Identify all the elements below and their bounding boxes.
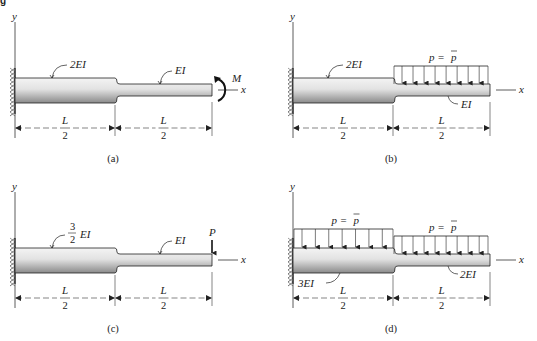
panel-caption: (c) (107, 323, 119, 335)
length-numerator: L (159, 284, 166, 296)
fixed-support-hatch (10, 68, 15, 116)
length-denominator: 2 (439, 300, 444, 311)
figure-canvas: g yxL2L22EIEIM(a)yxL2L22EIEIp =p(b)yxL2L… (0, 0, 537, 341)
stiffness-leader (52, 65, 67, 78)
x-axis-label: x (518, 253, 524, 265)
length-denominator: 2 (62, 130, 67, 141)
distributed-load: p =p (294, 214, 393, 248)
panel-c: yxL2L232EIEIP(c) (10, 180, 246, 335)
length-numerator: L (159, 114, 166, 126)
x-axis-label: x (518, 83, 524, 95)
stiffness-label: 2EI (460, 268, 477, 280)
fixed-support-hatch (10, 238, 15, 286)
stiffness-fraction-denominator: 2 (70, 234, 75, 245)
stepped-beam (15, 78, 212, 103)
x-axis-label: x (240, 83, 246, 95)
stepped-beam (15, 248, 212, 273)
load-label-lhs: p = (428, 51, 445, 63)
distributed-load: p =p (394, 221, 488, 254)
stiffness-label: EI (174, 234, 187, 246)
stiffness-leader (160, 241, 172, 254)
load-label-rhs: p (450, 221, 457, 233)
fixed-support-hatch (288, 68, 293, 116)
y-axis-label: y (289, 10, 295, 22)
figure-header: g (0, 0, 6, 6)
length-numerator: L (339, 284, 346, 296)
length-numerator: L (339, 114, 346, 126)
panel-caption: (b) (385, 153, 398, 165)
length-denominator: 2 (340, 300, 345, 311)
stiffness-leader (160, 71, 172, 84)
panel-b: yxL2L22EIEIp =p(b) (288, 10, 524, 165)
stiffness-label: EI (460, 98, 473, 110)
y-axis-label: y (289, 180, 295, 192)
panel-caption: (d) (385, 323, 398, 335)
y-axis-label: y (11, 10, 17, 22)
length-numerator: L (61, 114, 68, 126)
stiffness-label: 2EI (70, 58, 87, 70)
stiffness-leader (448, 96, 458, 104)
moment-label: M (231, 72, 242, 84)
stiffness-label: 2EI (346, 58, 363, 70)
y-axis-label: y (11, 180, 17, 192)
load-label-lhs: p = (428, 221, 445, 233)
length-numerator: L (437, 284, 444, 296)
point-load-label: P (208, 226, 216, 238)
stiffness-leader (326, 273, 340, 283)
fixed-support-hatch (288, 238, 293, 286)
stiffness-leader (52, 235, 65, 248)
length-denominator: 2 (62, 300, 67, 311)
stiffness-fraction-numerator: 3 (70, 221, 75, 232)
distributed-load: p =p (394, 51, 488, 84)
length-denominator: 2 (161, 300, 166, 311)
length-denominator: 2 (340, 130, 345, 141)
stiffness-leader (448, 266, 458, 274)
length-numerator: L (61, 284, 68, 296)
load-label-rhs: p (353, 214, 360, 226)
stiffness-label: 3EI (297, 277, 315, 289)
stiffness-label: EI (174, 64, 187, 76)
stiffness-label: EI (79, 228, 92, 240)
load-label-rhs: p (450, 51, 457, 63)
load-label-lhs: p = (331, 214, 348, 226)
length-denominator: 2 (439, 130, 444, 141)
panel-caption: (a) (107, 153, 119, 165)
panel-a: yxL2L22EIEIM(a) (10, 10, 246, 165)
length-denominator: 2 (161, 130, 166, 141)
x-axis-label: x (240, 253, 246, 265)
panel-d: yxL2L23EI2EIp =pp =p(d) (288, 180, 524, 335)
stiffness-leader (328, 65, 343, 78)
panels: yxL2L22EIEIM(a)yxL2L22EIEIp =p(b)yxL2L23… (10, 10, 524, 335)
length-numerator: L (437, 114, 444, 126)
